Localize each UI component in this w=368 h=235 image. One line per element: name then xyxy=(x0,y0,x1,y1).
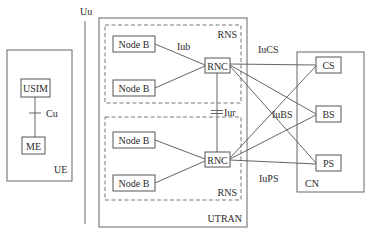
bs-label: BS xyxy=(322,109,334,120)
lower-rnc-to-ps xyxy=(230,160,316,164)
cs-label: CS xyxy=(322,60,334,71)
iups-label: IuPS xyxy=(259,173,278,184)
rnc-lower-label: RNC xyxy=(207,155,228,166)
node-b-3-label: Node B xyxy=(119,135,150,146)
ue-block: USIM ME Cu UE xyxy=(7,50,72,181)
ps-label: PS xyxy=(323,158,334,169)
ue-frame xyxy=(7,50,72,181)
uu-label: Uu xyxy=(80,6,92,17)
iub-link-3 xyxy=(155,140,205,159)
iub-link-4 xyxy=(155,161,205,183)
utran-label: UTRAN xyxy=(208,213,242,224)
uu-interface: Uu xyxy=(80,6,92,224)
ue-label: UE xyxy=(54,164,67,175)
upper-rnc-to-cs xyxy=(230,64,316,65)
cn-block: CS BS PS CN xyxy=(297,52,364,192)
rns-upper-label: RNS xyxy=(218,29,237,40)
usim-label: USIM xyxy=(23,83,48,94)
iur-label: Iur xyxy=(224,107,236,118)
upper-rnc-to-bs xyxy=(230,65,316,114)
iub-label: Iub xyxy=(177,41,190,52)
iub-link-2 xyxy=(155,66,205,88)
cu-label: Cu xyxy=(46,108,58,119)
node-b-4-label: Node B xyxy=(119,178,150,189)
node-b-1-label: Node B xyxy=(119,39,150,50)
iucs-label: IuCS xyxy=(258,44,279,55)
iubs-label: IuBS xyxy=(272,109,293,120)
rnc-upper-label: RNC xyxy=(207,61,228,72)
cn-label: CN xyxy=(305,178,319,189)
utran-block: UTRAN RNS Node B Node B Iub RNC Iur RNS xyxy=(99,18,247,227)
iu-links: IuCS IuBS IuPS xyxy=(230,44,316,184)
rns-lower-label: RNS xyxy=(218,187,237,198)
umts-architecture-diagram: USIM ME Cu UE Uu UTRAN RNS Node B Node B… xyxy=(0,0,368,235)
node-b-2-label: Node B xyxy=(119,83,150,94)
lower-rnc-to-bs xyxy=(230,115,316,159)
me-label: ME xyxy=(26,141,41,152)
rns-lower: RNS Node B Node B RNC xyxy=(105,117,241,200)
rns-upper: RNS Node B Node B Iub RNC xyxy=(105,25,241,103)
